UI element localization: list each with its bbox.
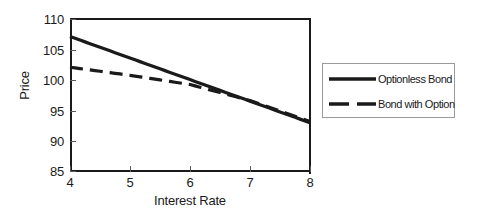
x-axis-title: Interest Rate [70,193,310,208]
y-tick-mark-100 [70,80,76,81]
legend-label-optionless-bond: Optionless Bond [378,74,452,85]
x-tick-mark-7 [250,166,251,172]
chart-legend: Optionless Bond Bond with Option [322,63,455,118]
x-tick-label-5: 5 [118,176,142,189]
y-tick-mark-105 [70,50,76,51]
x-tick-mark-6 [190,166,191,172]
y-tick-label-90: 90 [20,135,64,148]
y-tick-mark-110 [70,19,76,20]
x-tick-label-8: 8 [298,176,322,189]
y-tick-mark-95 [70,111,76,112]
plot-area [70,18,310,172]
x-tick-mark-4 [70,166,71,172]
legend-swatch-solid-line-icon [329,72,376,86]
legend-label-bond-with-option: Bond with Option [378,99,455,110]
plot-top-border [70,18,311,20]
x-tick-label-7: 7 [238,176,262,189]
x-tick-mark-8 [310,166,311,172]
x-tick-label-6: 6 [178,176,202,189]
y-axis-title: Price [17,56,32,116]
x-tick-mark-5 [130,166,131,172]
y-tick-label-110: 110 [20,13,64,26]
chart-figure: 110 105 100 95 90 85 4 5 6 7 8 Price Int… [0,0,477,222]
legend-swatch-dashed-line-icon [329,97,376,111]
legend-entry-optionless-bond: Optionless Bond [323,71,456,87]
x-tick-label-4: 4 [58,176,82,189]
legend-entry-bond-with-option: Bond with Option [323,96,456,112]
plot-right-border [309,18,311,174]
y-tick-mark-90 [70,141,76,142]
